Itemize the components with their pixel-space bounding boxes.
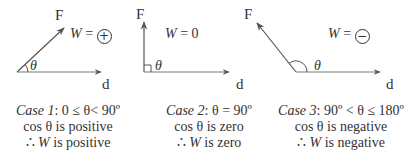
case1-angle-label: θ [30, 59, 37, 73]
case3-cos-statement: cos θ is negative [271, 119, 411, 135]
case2-work-label: W = 0 [165, 27, 199, 41]
case2-caption: Case 2: θ = 90º cos θ is zero ∴ W is zer… [139, 103, 279, 151]
case2-angle-label: θ [155, 59, 162, 73]
case1-title: Case 1: 0 ≤ θ< 90º [0, 103, 138, 119]
case2-force-label: F [136, 7, 144, 22]
case1-caption: Case 1: 0 ≤ θ< 90º cos θ is positive ∴ W… [0, 103, 138, 151]
case1-force-label: F [55, 8, 63, 23]
case1-angle-arc [25, 65, 28, 73]
case1-work-label: W = + [70, 27, 112, 44]
case2-right-angle-mark [144, 65, 151, 72]
case3-displacement-label: d [386, 77, 394, 92]
case3-work-label: W = − [328, 27, 370, 44]
case2-cos-statement: cos θ is zero [139, 119, 279, 135]
minus-circle-icon: − [355, 29, 370, 44]
case3-force-arrow [257, 23, 296, 72]
case3-work-statement: ∴ W is negative [271, 135, 411, 151]
case1-work-statement: ∴ W is positive [0, 135, 138, 151]
case1-displacement-label: d [102, 77, 110, 92]
case3-force-label: F [244, 7, 252, 22]
case2-displacement-label: d [236, 77, 244, 92]
case3-angle-label: θ [314, 59, 321, 73]
case3-caption: Case 3: 90º < θ ≤ 180º cos θ is negative… [271, 103, 411, 151]
case1-force-arrow [17, 28, 64, 72]
case1-cos-statement: cos θ is positive [0, 119, 138, 135]
case2-title: Case 2: θ = 90º [139, 103, 279, 119]
case2-work-statement: ∴ W is zero [139, 135, 279, 151]
case3-title: Case 3: 90º < θ ≤ 180º [271, 103, 411, 119]
plus-circle-icon: + [97, 29, 112, 44]
